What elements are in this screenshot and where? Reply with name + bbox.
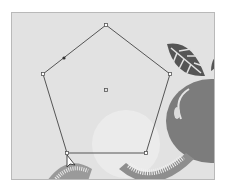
- anchor-point-left: [42, 73, 45, 76]
- anchor-point-bottom-right: [145, 152, 148, 155]
- center-point-icon: [105, 89, 108, 92]
- path-point-icon: [62, 56, 65, 59]
- artboard-canvas[interactable]: [11, 12, 215, 180]
- selection-overlay[interactable]: [12, 13, 215, 180]
- anchor-point-bottom-left: [66, 152, 69, 155]
- anchor-point-top: [105, 24, 108, 27]
- direct-selection-cursor-icon: [67, 155, 75, 167]
- anchor-point-right: [169, 73, 172, 76]
